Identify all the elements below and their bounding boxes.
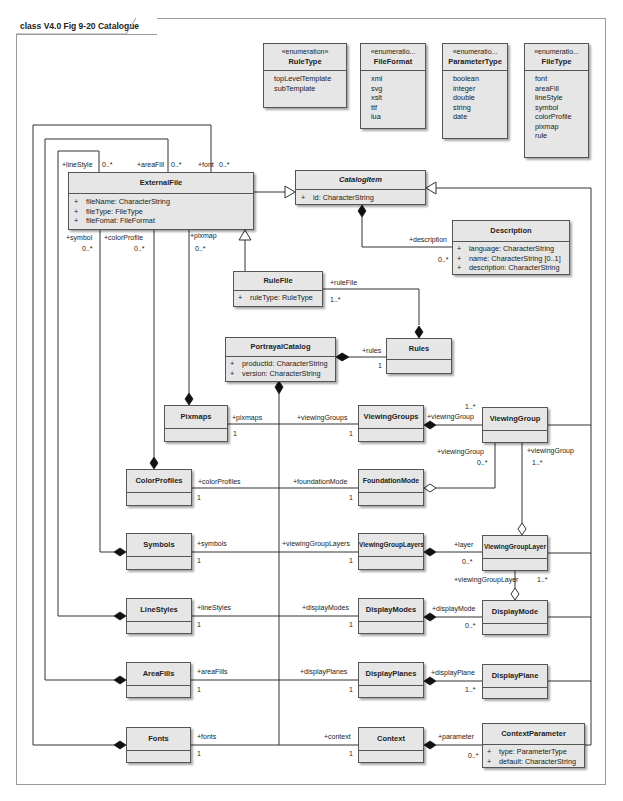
multiplicity-label: 1 bbox=[233, 430, 237, 438]
class-attributes: +ruleType: RuleType bbox=[234, 291, 322, 305]
multiplicity-label: 1 bbox=[197, 494, 201, 502]
multiplicity-label: 1..* bbox=[537, 576, 548, 584]
multiplicity-label: 1..* bbox=[330, 296, 341, 304]
role-label: +ruleFile bbox=[330, 279, 357, 287]
class-symbols[interactable]: Symbols bbox=[126, 533, 192, 570]
multiplicity-label: 0..* bbox=[82, 245, 93, 253]
role-label: +colorProfiles bbox=[198, 478, 241, 486]
multiplicity-label: 1 bbox=[349, 686, 353, 694]
multiplicity-label: 1 bbox=[349, 494, 353, 502]
class-header: Rules bbox=[387, 339, 451, 360]
multiplicity-label: 1 bbox=[197, 621, 201, 629]
role-label: +foundationMode bbox=[293, 478, 347, 486]
role-label: +context bbox=[324, 733, 351, 741]
multiplicity-label: 0..* bbox=[465, 622, 476, 630]
multiplicity-label: 1 bbox=[349, 557, 353, 565]
role-label: +viewingGroup bbox=[527, 447, 574, 455]
multiplicity-label: 0..* bbox=[438, 256, 449, 264]
multiplicity-label: 0..* bbox=[468, 752, 479, 760]
enum-fileformat[interactable]: «enumeratio...FileFormat xmlsvgxsltttflu… bbox=[360, 43, 426, 129]
class-displayplanes[interactable]: DisplayPlanes bbox=[358, 662, 424, 698]
class-portrayalcatalog[interactable]: PortrayalCatalog +productId: CharacterSt… bbox=[225, 337, 336, 382]
class-externalfile[interactable]: ExternalFile +fileName: CharacterString … bbox=[68, 172, 254, 230]
class-attributes: +language: CharacterString +name: Charac… bbox=[453, 242, 569, 275]
multiplicity-label: 1 bbox=[197, 686, 201, 694]
role-label: +pixmaps bbox=[232, 414, 262, 422]
role-label: +font bbox=[198, 161, 214, 169]
role-label: +viewingGroup bbox=[437, 448, 484, 456]
class-header: RuleFile bbox=[234, 272, 322, 291]
multiplicity-label: 0..* bbox=[462, 558, 473, 566]
role-label: +colorProfile bbox=[104, 234, 143, 242]
class-header: LineStyles bbox=[127, 599, 191, 622]
class-viewinggrouplayer[interactable]: ViewingGroupLayer bbox=[482, 535, 548, 571]
class-pixmaps[interactable]: Pixmaps bbox=[164, 405, 228, 442]
role-label: +viewingGroups bbox=[297, 414, 347, 422]
class-header: ViewingGroups bbox=[359, 406, 423, 429]
class-description[interactable]: Description +language: CharacterString +… bbox=[452, 220, 570, 275]
role-label: +symbols bbox=[197, 540, 227, 548]
class-attributes: +type: ParameterType +default: Character… bbox=[483, 745, 584, 768]
class-contextparameter[interactable]: ContextParameter +type: ParameterType +d… bbox=[482, 723, 585, 768]
multiplicity-label: 1 bbox=[378, 362, 382, 370]
multiplicity-label: 1 bbox=[197, 750, 201, 758]
enum-ruletype[interactable]: «enumeration»RuleType topLevelTemplatesu… bbox=[263, 43, 347, 108]
role-label: +areaFills bbox=[197, 668, 228, 676]
class-header: PortrayalCatalog bbox=[226, 338, 335, 357]
enum-parametertype[interactable]: «enumeratio...ParameterType booleaninteg… bbox=[442, 43, 508, 139]
class-attributes: +id: CharacterString bbox=[296, 190, 425, 206]
multiplicity-label: 0..* bbox=[477, 459, 488, 467]
multiplicity-label: 0..* bbox=[195, 245, 206, 253]
class-attributes: +productId: CharacterString +version: Ch… bbox=[226, 357, 335, 380]
multiplicity-label: 1..* bbox=[532, 459, 543, 467]
role-label: +displayModes bbox=[302, 604, 349, 612]
class-displaymodes[interactable]: DisplayModes bbox=[358, 598, 424, 634]
class-foundationmode[interactable]: FoundationMode bbox=[358, 469, 424, 506]
class-header: Symbols bbox=[127, 534, 191, 557]
class-header: ExternalFile bbox=[69, 173, 253, 194]
class-attributes: +fileName: CharacterString +fileType: Fi… bbox=[69, 194, 253, 229]
role-label: +viewingGroupLayers bbox=[282, 540, 350, 548]
class-header: FoundationMode bbox=[359, 470, 423, 493]
enum-filetype[interactable]: «enumeratio...FileType fontareaFilllineS… bbox=[524, 43, 589, 158]
role-label: +symbol bbox=[66, 234, 92, 242]
class-catalogitem[interactable]: CatalogItem +id: CharacterString bbox=[295, 170, 426, 205]
class-rules[interactable]: Rules bbox=[386, 338, 452, 374]
class-displaymode[interactable]: DisplayMode bbox=[482, 600, 548, 635]
class-header: DisplayMode bbox=[483, 601, 547, 624]
class-areafills[interactable]: AreaFills bbox=[126, 662, 191, 698]
enum-header: «enumeration»RuleType bbox=[264, 44, 346, 71]
multiplicity-label: 0..* bbox=[171, 161, 182, 169]
enum-literals: fontareaFilllineStylesymbolcolorProfilep… bbox=[525, 71, 588, 144]
role-label: +viewingGroup bbox=[427, 413, 474, 421]
class-linestyles[interactable]: LineStyles bbox=[126, 598, 192, 634]
role-label: +areaFill bbox=[137, 161, 164, 169]
role-label: +displayPlanes bbox=[300, 668, 347, 676]
class-context[interactable]: Context bbox=[358, 727, 424, 763]
class-viewinggroups[interactable]: ViewingGroups bbox=[358, 405, 424, 442]
class-viewinggrouplayers[interactable]: ViewingGroupLayers bbox=[358, 533, 424, 570]
class-header: ColorProfiles bbox=[127, 470, 191, 493]
enum-literals: booleanintegerdoublestringdate bbox=[443, 71, 507, 125]
role-label: +parameter bbox=[438, 733, 474, 741]
multiplicity-label: 1 bbox=[197, 557, 201, 565]
role-label: +displayMode bbox=[432, 605, 475, 613]
class-header: ContextParameter bbox=[483, 724, 584, 745]
class-header: DisplayModes bbox=[359, 599, 423, 622]
class-rulefile[interactable]: RuleFile +ruleType: RuleType bbox=[233, 271, 323, 307]
class-header: Fonts bbox=[127, 728, 190, 751]
class-header: Pixmaps bbox=[165, 406, 227, 429]
class-header: DisplayPlane bbox=[483, 665, 547, 688]
role-label: +description bbox=[409, 236, 447, 244]
multiplicity-label: 0..* bbox=[219, 161, 230, 169]
multiplicity-label: 0..* bbox=[102, 161, 113, 169]
class-header: DisplayPlanes bbox=[359, 663, 423, 686]
class-colorprofiles[interactable]: ColorProfiles bbox=[126, 469, 192, 506]
role-label: +lineStyles bbox=[197, 604, 231, 612]
class-fonts[interactable]: Fonts bbox=[126, 727, 191, 763]
class-displayplane[interactable]: DisplayPlane bbox=[482, 664, 548, 699]
enum-header: «enumeratio...FileType bbox=[525, 44, 588, 71]
multiplicity-label: 1 bbox=[349, 621, 353, 629]
class-viewinggroup[interactable]: ViewingGroup bbox=[482, 407, 548, 443]
class-header: AreaFills bbox=[127, 663, 190, 686]
